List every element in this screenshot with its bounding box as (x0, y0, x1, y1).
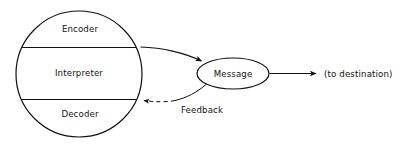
connector-feedback-dashed-segment[interactable] (144, 101, 175, 102)
destination-label: (to destination) (324, 69, 393, 79)
diagram-svg: Encoder Interpreter Decoder Message (to … (0, 0, 407, 148)
segment-label-decoder: Decoder (61, 109, 99, 119)
diagram-canvas: Encoder Interpreter Decoder Message (to … (0, 0, 407, 148)
segment-label-interpreter: Interpreter (55, 68, 103, 78)
feedback-label: Feedback (181, 105, 223, 115)
segment-label-encoder: Encoder (62, 24, 99, 34)
message-ellipse[interactable]: Message (197, 58, 269, 89)
connector-feedback-solid-segment[interactable] (175, 84, 207, 101)
source-circle[interactable]: Encoder Interpreter Decoder (10, 11, 150, 137)
connector-encoder-to-message[interactable] (141, 47, 202, 61)
message-label: Message (214, 69, 253, 79)
